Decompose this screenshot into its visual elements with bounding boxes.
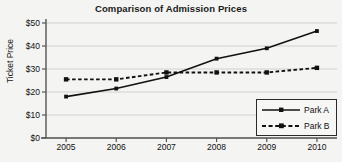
legend-label-1: Park B — [304, 121, 330, 131]
data-series — [64, 29, 319, 98]
legend-swatch-dashed-line-icon — [261, 120, 301, 132]
legend-label-0: Park A — [304, 105, 329, 115]
legend-item-1[interactable]: Park B — [257, 118, 336, 134]
legend-swatch-solid-line-icon — [261, 104, 301, 116]
legend-item-0[interactable]: Park A — [257, 102, 336, 118]
chart-container: Comparison of Admission Prices Ticket Pr… — [0, 0, 342, 162]
legend: Park A Park B — [256, 99, 337, 136]
plot-area — [0, 0, 342, 162]
